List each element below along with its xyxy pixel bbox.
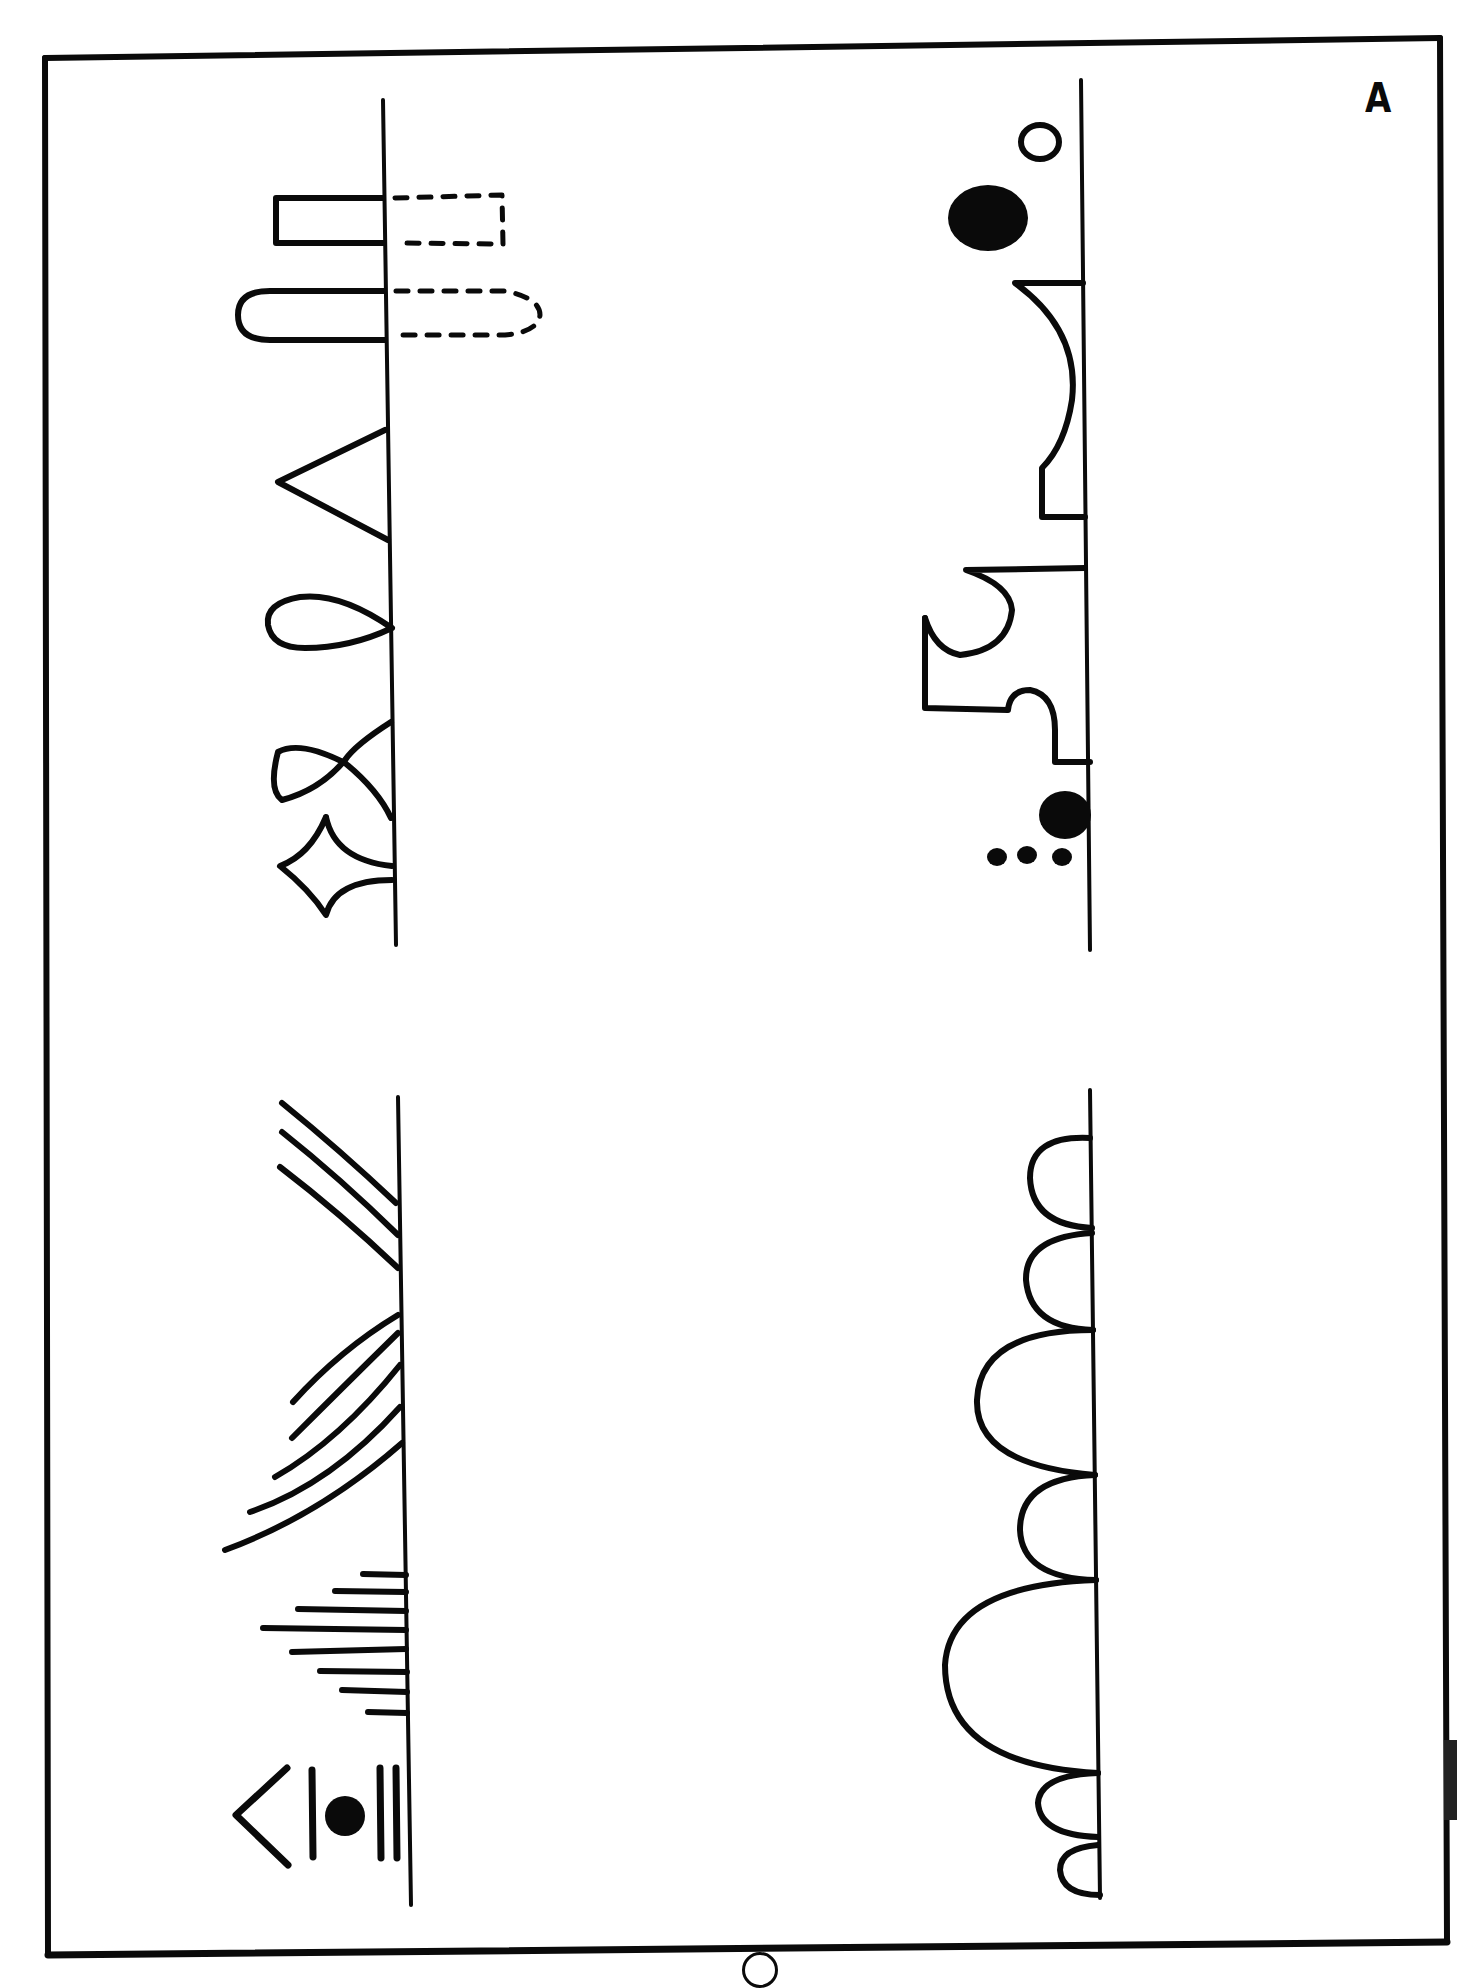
arch-with-notch-motif [1015,283,1085,517]
diagonal-line-1 [282,1103,396,1203]
scallop-1 [1030,1138,1092,1228]
small-open-circle-motif [1021,125,1059,159]
panel-bottom-left [225,1097,411,1905]
corner-label: A [1365,74,1391,122]
scallop-4 [1020,1475,1096,1580]
panel-top-left [238,100,540,945]
triangle-motif [278,430,388,540]
baseline [1090,1090,1100,1898]
scallop-3 [977,1330,1095,1475]
rounded-loop-motif [238,291,385,340]
scallop-6 [1038,1773,1098,1837]
small-dot-1 [987,848,1007,866]
filled-dot-motif [1039,791,1091,839]
center-dot-motif [325,1796,365,1836]
curved-line-5 [225,1443,402,1550]
step-bump-motif [925,618,1090,762]
page-number-circle [742,1952,778,1988]
small-dot-3 [1052,848,1072,866]
scallop-7 [1060,1845,1100,1895]
double-bar-1 [380,1768,381,1858]
scallop-2 [1026,1233,1093,1330]
horizontal-ticks [263,1574,407,1713]
curved-line-4 [250,1407,400,1512]
page-frame [45,38,1447,1955]
baseline [398,1097,411,1905]
single-bar-motif [312,1770,313,1857]
scan-edge-shadow [1444,1740,1457,1820]
dashed-rectangle-mirror [395,195,503,244]
hook-curve-motif [925,568,1085,655]
panel-bottom-right [945,1090,1100,1898]
small-dot-2 [1017,846,1037,864]
crossed-loop-motif [274,722,391,818]
rectangle-loop-motif [276,198,384,243]
dashed-rounded-mirror [396,291,540,335]
four-point-star-motif [280,817,392,915]
double-bar-2 [396,1768,397,1858]
teardrop-loop-motif [268,596,392,648]
large-filled-dot-motif [948,185,1028,251]
panel-top-right [925,80,1091,950]
scallop-5 [945,1580,1098,1773]
chevron-motif [236,1768,288,1865]
